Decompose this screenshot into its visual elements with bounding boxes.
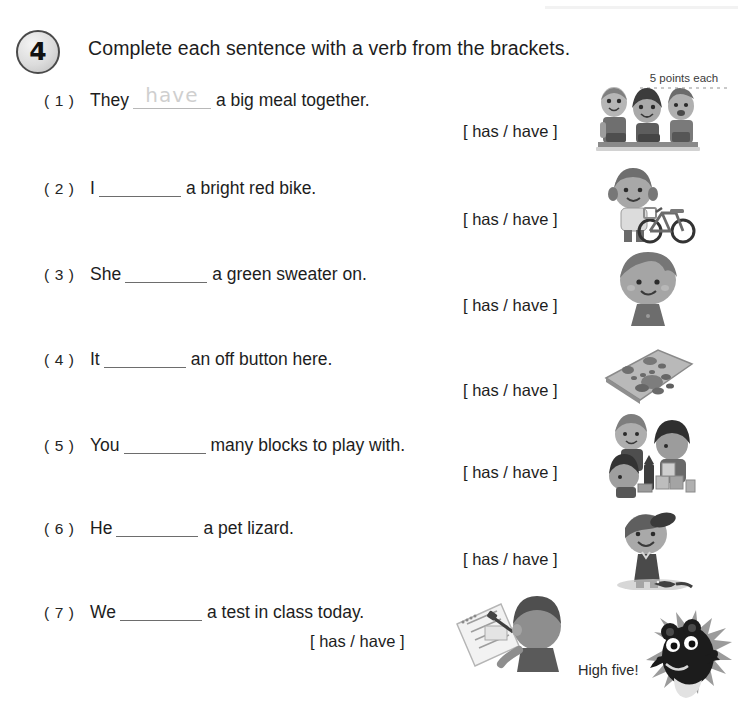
question-sentence-1: ( 1 )Theyhavea big meal together. [44, 90, 370, 111]
sentence-after-5: many blocks to play with. [211, 435, 406, 455]
brackets-choice-7: [ has / have ] [310, 632, 404, 651]
question-number-5: ( 5 ) [44, 437, 90, 455]
three-friends-meal-illustration [592, 82, 704, 160]
exercise-number-badge: 4 [16, 30, 60, 74]
question-sentence-2: ( 2 )Ia bright red bike. [44, 178, 316, 199]
sentence-before-2: I [90, 178, 95, 199]
brackets-choice-1: [ has / have ] [463, 122, 557, 141]
sentence-before-3: She [90, 264, 121, 285]
sentence-before-5: You [90, 435, 120, 456]
question-sentence-4: ( 4 )Itan off button here. [44, 349, 332, 370]
exercise-header: 4 Complete each sentence with a verb fro… [0, 28, 738, 84]
answer-blank-3[interactable] [125, 264, 207, 283]
question-number-4: ( 4 ) [44, 351, 90, 369]
question-number-2: ( 2 ) [44, 180, 90, 198]
girl-with-bike-illustration [600, 168, 700, 246]
sentence-before-1: They [90, 90, 129, 111]
sentence-after-3: a green sweater on. [212, 264, 367, 284]
children-blocks-illustration [598, 414, 706, 498]
answer-blank-7[interactable] [120, 602, 202, 621]
brackets-choice-5: [ has / have ] [463, 463, 557, 482]
answer-blank-4[interactable] [104, 349, 186, 368]
boy-with-lizard-illustration [608, 508, 698, 590]
sample-answer-1: have [133, 83, 211, 107]
answer-blank-6[interactable] [116, 518, 198, 537]
sentence-after-4: an off button here. [191, 349, 333, 369]
question-sentence-3: ( 3 )Shea green sweater on. [44, 264, 367, 285]
brackets-choice-6: [ has / have ] [463, 550, 557, 569]
sentence-after-7: a test in class today. [207, 602, 364, 622]
brackets-choice-4: [ has / have ] [463, 381, 557, 400]
question-number-1: ( 1 ) [44, 92, 90, 110]
top-decorative-rule [545, 6, 738, 9]
high-five-label: High five! [578, 662, 638, 678]
worksheet-page: 4 Complete each sentence with a verb fro… [0, 0, 738, 701]
sentence-after-6: a pet lizard. [203, 518, 293, 538]
brackets-choice-3: [ has / have ] [463, 296, 557, 315]
hedgehog-mascot [640, 608, 738, 701]
question-number-3: ( 3 ) [44, 266, 90, 284]
sentence-before-6: He [90, 518, 112, 539]
remote-control-illustration [600, 344, 696, 406]
sentence-before-7: We [90, 602, 116, 623]
question-sentence-7: ( 7 )Wea test in class today. [44, 602, 364, 623]
sentence-after-1: a big meal together. [216, 90, 370, 110]
answer-blank-5[interactable] [124, 435, 206, 454]
question-number-7: ( 7 ) [44, 604, 90, 622]
sentence-after-2: a bright red bike. [186, 178, 316, 198]
question-number-6: ( 6 ) [44, 520, 90, 538]
exercise-number-text: 4 [29, 39, 46, 64]
girl-with-sweater-illustration [608, 252, 692, 326]
answer-blank-2[interactable] [99, 178, 181, 197]
question-sentence-5: ( 5 )Youmany blocks to play with. [44, 435, 405, 456]
question-sentence-6: ( 6 )Hea pet lizard. [44, 518, 294, 539]
sentence-before-4: It [90, 349, 100, 370]
student-taking-test-illustration [455, 596, 565, 672]
brackets-choice-2: [ has / have ] [463, 210, 557, 229]
instruction-text: Complete each sentence with a verb from … [88, 37, 570, 60]
answer-blank-1[interactable]: have [133, 90, 211, 109]
